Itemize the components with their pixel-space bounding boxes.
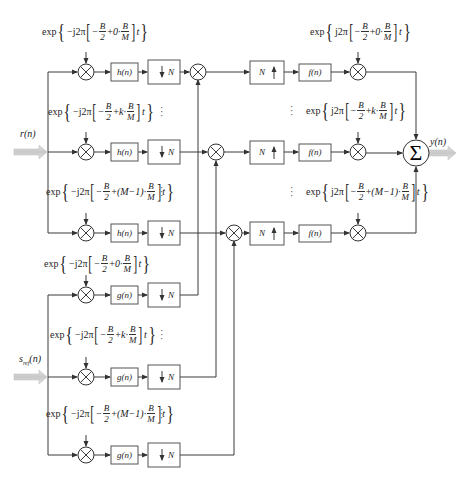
analysis-row: g(n)N — [48, 275, 180, 307]
brace-close: } — [421, 180, 428, 202]
bracket-open: [ — [93, 101, 97, 121]
phase-sign: −j2π — [75, 329, 93, 340]
upsample-block — [250, 61, 284, 84]
num: B — [357, 181, 365, 192]
bracket-open: [ — [91, 181, 95, 201]
den: 2 — [100, 32, 105, 42]
brace-open: { — [64, 100, 71, 122]
frac-b-2: B2 — [105, 101, 113, 122]
f-filter-label: f(n) — [309, 228, 322, 238]
exp-text: exp — [48, 106, 62, 117]
exp-label: exp{j2π[−B2+0·BM]t} — [310, 18, 412, 44]
minus: − — [94, 258, 100, 269]
downsample-block — [148, 60, 180, 84]
ellipsis-vertical: ··· — [160, 329, 163, 341]
num: B — [379, 100, 387, 111]
bracket-open: [ — [345, 100, 349, 120]
num: B — [107, 324, 115, 335]
num: B — [123, 253, 131, 264]
g-filter-label: g(n) — [117, 450, 132, 460]
upsample-block — [250, 141, 284, 164]
frac-b-2: B2 — [357, 100, 365, 121]
den: 2 — [359, 192, 364, 202]
analysis-row: h(n)N — [48, 132, 207, 164]
synthesis-row: Nf(n) — [242, 213, 366, 245]
upsample-block — [250, 222, 284, 245]
mixer-icon — [78, 369, 94, 385]
sref-arg: (n) — [29, 353, 41, 364]
bracket-open: [ — [349, 21, 353, 41]
den: 2 — [108, 335, 113, 345]
bracket-open: [ — [95, 324, 99, 344]
downsample-block — [148, 221, 180, 245]
brace-open: { — [60, 252, 67, 274]
exp-text: exp — [44, 258, 58, 269]
exp-text: exp — [306, 105, 320, 116]
downsample-label: N — [167, 372, 175, 382]
num: B — [101, 253, 109, 264]
den: 2 — [104, 192, 109, 202]
index: k· — [371, 105, 378, 116]
brace-open: { — [62, 402, 69, 424]
brace-close: } — [399, 99, 406, 121]
exp-label: exp{−j2π[−B2+0·BM]t} — [42, 18, 150, 44]
den: M — [147, 414, 155, 424]
downsample-label: N — [167, 147, 175, 157]
exp-text: exp — [42, 26, 56, 37]
num: B — [357, 100, 365, 111]
den: 2 — [104, 414, 109, 424]
analysis-row: g(n)N — [48, 435, 180, 467]
f-filter-label: f(n) — [309, 147, 322, 157]
bracket-close: ] — [389, 100, 393, 120]
den: 2 — [102, 264, 107, 274]
den: 2 — [359, 111, 364, 121]
brace-close: } — [148, 323, 155, 345]
brace-close: } — [143, 252, 150, 274]
brace-close: } — [146, 100, 153, 122]
output-arrow-y — [429, 146, 456, 160]
ellipsis-vertical: ··· — [290, 186, 293, 198]
num: B — [361, 21, 369, 32]
index: (M−1)· — [117, 186, 146, 197]
index: (M−1)· — [371, 186, 400, 197]
num: B — [103, 181, 111, 192]
downsample-block — [148, 140, 180, 164]
frac-b-2: B2 — [103, 181, 111, 202]
frac-b-m: BM — [384, 21, 392, 42]
frac-b-m: BM — [402, 181, 410, 202]
num: B — [121, 21, 129, 32]
num: B — [103, 403, 111, 414]
analysis-row: h(n)N — [48, 52, 189, 84]
den: M — [123, 264, 131, 274]
exp-label: exp{j2π[−B2+(M−1)·BM]t} — [306, 178, 430, 204]
num: B — [105, 101, 113, 112]
time-var: t — [394, 105, 397, 116]
phase-sign: j2π — [331, 186, 344, 197]
exp-label: exp{−j2π[−B2+0·BM]t} — [44, 250, 152, 276]
exp-label: exp{−j2π[−B2+k·BM]t} — [48, 98, 155, 124]
mixer-icon — [78, 447, 94, 463]
h-filter-label: h(n) — [117, 228, 132, 238]
h-filter-label: h(n) — [117, 67, 132, 77]
output-label-y: y(n) — [430, 136, 446, 147]
index: (M−1)· — [117, 408, 146, 419]
bracket-open: [ — [89, 253, 93, 273]
brace-open: { — [62, 180, 69, 202]
den: M — [379, 111, 387, 121]
bracket-close: ] — [137, 101, 141, 121]
num: B — [129, 324, 137, 335]
den: M — [402, 192, 410, 202]
minus: − — [92, 26, 98, 37]
den: M — [121, 32, 129, 42]
analysis-row: g(n)N — [48, 357, 180, 389]
phase-sign: j2π — [335, 26, 348, 37]
brace-close: } — [141, 20, 148, 42]
bracket-close: ] — [411, 181, 415, 201]
synthesis-row: Nf(n) — [224, 132, 366, 164]
downsample-block — [148, 365, 180, 389]
phase-sign: −j2π — [69, 258, 87, 269]
downsample-label: N — [167, 450, 175, 460]
phase-sign: −j2π — [71, 408, 89, 419]
synthesis-row: Nf(n) — [206, 52, 366, 84]
time-var: t — [142, 106, 145, 117]
